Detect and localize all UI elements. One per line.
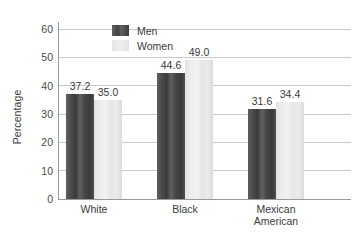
bar-women-black: 49.0 bbox=[185, 60, 213, 199]
legend-label-men: Men bbox=[137, 25, 157, 37]
chart-legend: Men Women bbox=[112, 23, 173, 53]
legend-item-men: Men bbox=[112, 23, 173, 38]
bar-men-black: 44.6 bbox=[157, 73, 185, 199]
y-tick-label: 10 bbox=[41, 165, 53, 177]
bar-women-white: 35.0 bbox=[94, 100, 122, 199]
x-axis-label-black: Black bbox=[172, 203, 198, 215]
x-axis-label-mexican-american: MexicanAmerican bbox=[254, 203, 298, 227]
bar-value-label: 34.4 bbox=[280, 88, 300, 100]
y-tick-label: 40 bbox=[41, 80, 53, 92]
bar-value-label: 49.0 bbox=[189, 46, 209, 58]
y-tick-label: 50 bbox=[41, 51, 53, 63]
y-axis-title-text: Percentage bbox=[11, 90, 23, 145]
x-axis-label-white: White bbox=[81, 203, 108, 215]
y-axis-title: Percentage bbox=[8, 62, 26, 172]
legend-swatch-women-icon bbox=[112, 40, 129, 51]
bar-value-label: 31.6 bbox=[252, 95, 272, 107]
y-tick-label: 30 bbox=[41, 108, 53, 120]
legend-swatch-men-icon bbox=[112, 25, 129, 36]
bar-value-label: 44.6 bbox=[161, 59, 181, 71]
bar-women-mexican-american: 34.4 bbox=[276, 102, 304, 199]
x-axis-label-line: American bbox=[254, 215, 298, 227]
x-axis-label-line: White bbox=[81, 203, 108, 215]
plot-area: 0102030405060 37.235.044.649.031.634.4 bbox=[59, 22, 351, 199]
bar-men-white: 37.2 bbox=[66, 94, 94, 199]
y-tick-label: 20 bbox=[41, 136, 53, 148]
bar-chart: Percentage 0102030405060 37.235.044.649.… bbox=[0, 0, 359, 240]
y-tick-label: 0 bbox=[47, 193, 53, 205]
bar-value-label: 35.0 bbox=[98, 86, 118, 98]
legend-item-women: Women bbox=[112, 38, 173, 53]
legend-label-women: Women bbox=[137, 40, 173, 52]
x-axis-label-line: Black bbox=[172, 203, 198, 215]
y-tick-label: 60 bbox=[41, 23, 53, 35]
x-axis-label-line: Mexican bbox=[254, 203, 298, 215]
bar-value-label: 37.2 bbox=[70, 80, 90, 92]
gridline-60 bbox=[59, 29, 351, 30]
bar-men-mexican-american: 31.6 bbox=[248, 109, 276, 199]
